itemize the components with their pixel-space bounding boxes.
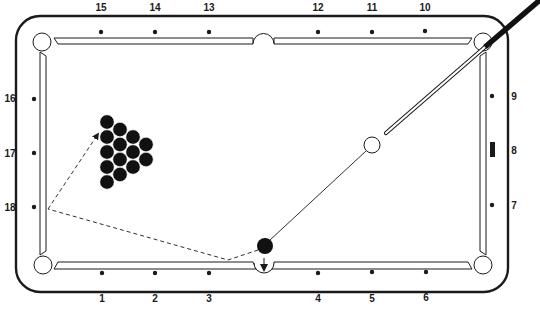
- label-10: 10: [419, 2, 431, 13]
- rack-ball: [113, 167, 127, 181]
- rack-ball: [100, 130, 114, 144]
- rack-ball: [100, 175, 114, 189]
- diamond-2: [153, 271, 157, 275]
- label-14: 14: [149, 2, 161, 13]
- labels-bottom: 1 2 3 4 5 6: [99, 292, 429, 304]
- aim-line: [270, 151, 366, 240]
- diamond-3: [207, 271, 211, 275]
- label-1: 1: [99, 293, 105, 304]
- diamond-9: [490, 94, 494, 98]
- diamonds-right: [490, 94, 495, 207]
- label-16: 16: [4, 93, 16, 104]
- label-5: 5: [369, 293, 375, 304]
- shot-path-dashed: [48, 134, 258, 260]
- rack-ball: [113, 122, 127, 136]
- label-15: 15: [95, 2, 107, 13]
- diamond-4: [316, 271, 320, 275]
- diamond-6: [424, 270, 428, 274]
- rack-ball: [139, 137, 153, 151]
- diamond-5: [370, 270, 374, 274]
- diamonds-left: [32, 97, 36, 209]
- diamond-16: [32, 97, 36, 101]
- labels-right: 9 8 7: [511, 91, 517, 211]
- label-11: 11: [367, 2, 378, 13]
- diamond-18: [32, 205, 36, 209]
- cue-ball: [364, 137, 380, 153]
- rack-ball: [126, 160, 140, 174]
- label-17: 17: [4, 148, 16, 159]
- label-9: 9: [511, 91, 517, 102]
- label-3: 3: [206, 293, 212, 304]
- cue-stick: [386, 0, 540, 133]
- pocket-bottom-left: [34, 256, 52, 274]
- pocket-bottom-right: [474, 256, 492, 274]
- label-12: 12: [312, 2, 324, 13]
- object-ball: [257, 238, 273, 254]
- rack-ball: [113, 152, 127, 166]
- rack-ball: [139, 152, 153, 166]
- diamond-11: [370, 30, 374, 34]
- diamond-13: [207, 30, 211, 34]
- rack-ball: [126, 145, 140, 159]
- diamond-15: [99, 30, 103, 34]
- rack-ball: [113, 137, 127, 151]
- label-4: 4: [315, 293, 321, 304]
- label-13: 13: [203, 2, 215, 13]
- pocket-top-middle: [253, 34, 274, 44]
- rack-ball: [126, 130, 140, 144]
- pool-table-diagram: 15 14 13 12 11 10 1 2 3 4 5 6 16 17 18 9…: [0, 0, 540, 313]
- diamond-1: [100, 271, 104, 275]
- label-6: 6: [423, 292, 429, 303]
- diamond-17: [32, 151, 36, 155]
- ball-rack: [100, 115, 159, 189]
- label-8: 8: [511, 145, 517, 156]
- labels-left: 16 17 18: [4, 93, 16, 213]
- diamond-8-marker: [490, 142, 495, 157]
- label-18: 18: [4, 202, 16, 213]
- rack-ball: [100, 160, 114, 174]
- diamond-14: [153, 30, 157, 34]
- labels-top: 15 14 13 12 11 10: [95, 2, 431, 13]
- label-7: 7: [511, 200, 517, 211]
- pocket-top-left: [33, 33, 51, 51]
- diamond-7: [490, 203, 494, 207]
- rack-ball: [100, 115, 114, 129]
- label-2: 2: [152, 293, 158, 304]
- diamond-12: [316, 30, 320, 34]
- diamond-10: [423, 29, 427, 33]
- rack-ball: [100, 145, 114, 159]
